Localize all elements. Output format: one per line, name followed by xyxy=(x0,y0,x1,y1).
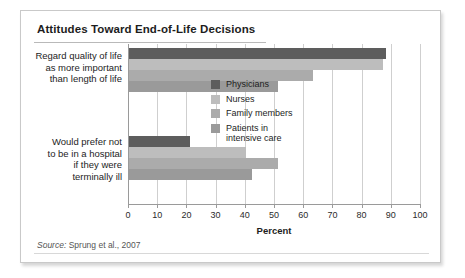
x-axis-tick xyxy=(274,204,275,208)
x-axis-tick-label: 100 xyxy=(412,210,427,220)
bar xyxy=(129,147,246,158)
chart-screenshot: Attitudes Toward End-of-Life Decisions R… xyxy=(0,0,465,278)
x-axis-tick-label: 40 xyxy=(240,210,250,220)
x-axis-tick-label: 20 xyxy=(181,210,191,220)
bar xyxy=(129,169,252,180)
x-axis-tick xyxy=(245,204,246,208)
bar xyxy=(129,59,383,70)
category-label: Regard quality of life as more important… xyxy=(35,50,122,85)
bar xyxy=(129,136,190,147)
legend-item: Patients in intensive care xyxy=(211,123,326,144)
legend-label: Patients in intensive care xyxy=(226,123,282,144)
legend-item: Family members xyxy=(211,108,326,119)
legend-swatch xyxy=(211,80,220,89)
chart-legend: PhysiciansNursesFamily membersPatients i… xyxy=(211,79,326,148)
category-labels: Regard quality of life as more important… xyxy=(21,44,122,204)
chart-panel: Attitudes Toward End-of-Life Decisions R… xyxy=(20,10,441,263)
x-axis-tick xyxy=(391,204,392,208)
x-axis-tick xyxy=(128,204,129,208)
legend-label: Nurses xyxy=(226,94,255,105)
x-axis-tick-label: 60 xyxy=(298,210,308,220)
x-axis-tick xyxy=(216,204,217,208)
legend-swatch xyxy=(211,109,220,118)
legend-label: Physicians xyxy=(226,79,269,90)
x-axis-label: Percent xyxy=(257,225,292,236)
title-divider xyxy=(34,42,266,43)
legend-swatch xyxy=(211,124,220,133)
gridline xyxy=(391,44,392,204)
bar xyxy=(129,48,386,59)
bar xyxy=(129,158,278,169)
x-axis-tick xyxy=(186,204,187,208)
x-axis-tick-label: 0 xyxy=(125,210,130,220)
legend-item: Physicians xyxy=(211,79,326,90)
x-axis-tick-label: 70 xyxy=(327,210,337,220)
source-citation: Sprung et al., 2007 xyxy=(66,240,140,250)
source-divider xyxy=(34,253,429,254)
x-axis-tick-label: 10 xyxy=(152,210,162,220)
source-label: Source: xyxy=(37,240,66,250)
x-axis-tick xyxy=(157,204,158,208)
x-axis-tick xyxy=(332,204,333,208)
x-axis-tick-label: 30 xyxy=(211,210,221,220)
legend-label: Family members xyxy=(226,108,293,119)
chart-title: Attitudes Toward End-of-Life Decisions xyxy=(37,23,255,35)
source-note: Source: Sprung et al., 2007 xyxy=(37,240,141,250)
x-axis-tick-label: 50 xyxy=(269,210,279,220)
x-axis-tick xyxy=(420,204,421,208)
legend-swatch xyxy=(211,95,220,104)
x-axis-tick xyxy=(303,204,304,208)
legend-item: Nurses xyxy=(211,94,326,105)
gridline xyxy=(420,44,421,204)
category-label: Would prefer not to be in a hospital if … xyxy=(48,136,122,182)
x-axis-tick-label: 90 xyxy=(386,210,396,220)
x-axis-tick xyxy=(362,204,363,208)
x-axis-tick-label: 80 xyxy=(357,210,367,220)
